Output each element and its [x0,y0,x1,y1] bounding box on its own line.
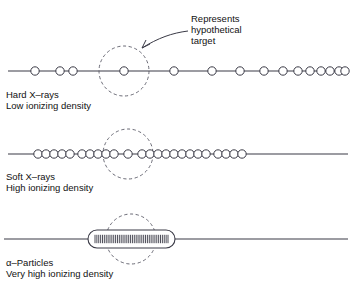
ionization-circle [42,150,50,158]
ionization-circle [236,67,244,75]
ionization-circle [222,150,230,158]
track-label-line-1: Hard X–rays [6,89,59,100]
annotation-arrow-curve [142,31,188,48]
ionization-circle [294,67,302,75]
ionization-track-diagram: Represents hypothetical target Hard X–ra… [0,0,352,296]
track-label-line-2: Low ionizing density [6,100,91,111]
track-label-line-2: High ionizing density [6,182,93,193]
ionization-circle [214,150,222,158]
ionization-events [34,150,246,158]
ionization-circle [306,67,314,75]
ionization-circle [78,150,86,158]
ionization-circle [170,150,178,158]
ionization-circle [178,150,186,158]
ionization-circle [186,150,194,158]
track-label-line-1: Soft X–rays [6,171,55,182]
ionization-circle [162,150,170,158]
ionization-circle [66,150,74,158]
track-hard-xrays: Hard X–rays Low ionizing density [6,46,349,111]
ionization-circle [238,150,246,158]
ionization-circle [69,67,77,75]
ionization-circle [138,150,146,158]
ionization-circle [230,150,238,158]
ionization-circle [154,150,162,158]
ionization-circle [50,150,58,158]
ionization-circle [341,67,349,75]
annotation-line-2: hypothetical [191,24,242,35]
track-alpha-particles: α–Particles Very high ionizing density [4,214,348,279]
ionization-circle [110,150,118,158]
ionization-circle [279,67,287,75]
ionization-circle [208,67,216,75]
ionization-circle [94,150,102,158]
ionization-circle [34,150,42,158]
ionization-circle [260,67,268,75]
ionization-circle [124,150,132,158]
ionization-circle [58,150,66,158]
ionization-circle [146,150,154,158]
ionization-circle [31,67,39,75]
annotation-line-3: target [191,35,216,46]
ionization-circle [56,67,64,75]
track-soft-xrays: Soft X–rays High ionizing density [6,129,348,193]
ionization-circle [202,150,210,158]
ionization-circle [326,67,334,75]
ionization-circle [194,150,202,158]
ionization-circle [170,67,178,75]
dense-ionization-capsule [88,230,175,248]
diagram-canvas: Represents hypothetical target Hard X–ra… [0,0,352,296]
ionization-circle [120,67,128,75]
ionization-circle [317,67,325,75]
track-label-line-2: Very high ionizing density [6,268,113,279]
ionization-circle [86,150,94,158]
annotation-group: Represents hypothetical target [142,13,242,48]
track-label-line-1: α–Particles [6,257,53,268]
annotation-line-1: Represents [191,13,240,24]
ionization-circle [102,150,110,158]
